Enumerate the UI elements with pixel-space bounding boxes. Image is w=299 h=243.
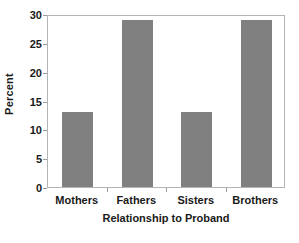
x-tick-mark <box>226 188 227 192</box>
bar-chart-figure: Percent 051015202530 MothersFathersSiste… <box>0 0 299 243</box>
x-tick-mark <box>107 188 108 192</box>
y-tick-label: 30 <box>18 10 42 21</box>
y-axis-title-text: Percent <box>3 73 15 115</box>
bar <box>62 112 93 187</box>
y-tick-label: 0 <box>18 183 42 194</box>
x-category-label: Sisters <box>177 193 214 207</box>
y-axis-ticks: 051015202530 <box>18 0 42 243</box>
y-axis-title: Percent <box>0 0 18 188</box>
x-axis-title: Relationship to Proband <box>47 212 285 224</box>
bar <box>181 112 212 187</box>
plot-area <box>47 15 285 188</box>
x-tick-mark <box>166 188 167 192</box>
y-tick-label: 5 <box>18 154 42 165</box>
x-category-label: Mothers <box>55 193 98 207</box>
x-category-label: Fathers <box>116 193 156 207</box>
x-axis-category-labels: MothersFathersSistersBrothers <box>47 193 285 211</box>
bar <box>241 20 272 187</box>
y-tick-label: 10 <box>18 125 42 136</box>
plot-inner <box>48 16 284 187</box>
y-tick-label: 15 <box>18 96 42 107</box>
y-tick-label: 25 <box>18 38 42 49</box>
y-tick-label: 20 <box>18 67 42 78</box>
x-category-label: Brothers <box>232 193 278 207</box>
bar <box>122 20 153 187</box>
